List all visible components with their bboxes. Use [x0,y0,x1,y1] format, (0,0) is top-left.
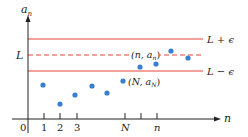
point-N-label: (N, aN) [128,76,160,88]
point [57,101,62,106]
point [40,82,45,87]
point [89,83,94,88]
tick-label-N: N [120,122,131,133]
point [185,55,190,60]
point-N [120,78,125,83]
lower-bound-label: L − ϵ [206,66,234,77]
tick-label-n: n [154,122,160,133]
point [137,64,142,69]
sequence-points [40,48,190,106]
point [72,92,77,97]
point [104,90,109,95]
tick-label-1: 1 [41,122,47,133]
tick-label-3: 3 [74,122,80,133]
x-axis-arrow-icon [214,117,221,122]
sequence-limit-diagram: an n 0 L 1 2 3 N n L + ϵ L − ϵ (n, an) (… [0,0,248,137]
origin-label: 0 [20,122,26,133]
upper-bound-label: L + ϵ [206,34,234,45]
point-n-label: (n, an) [131,49,160,61]
point [168,48,173,53]
x-ticks [44,113,157,119]
tick-label-2: 2 [57,122,63,133]
limit-label: L [15,49,23,62]
point-n [153,61,158,66]
x-axis-label: n [224,112,231,125]
y-axis-label: an [21,3,33,18]
